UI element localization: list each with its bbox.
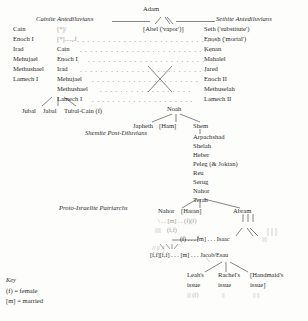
- node-seth: Seth ('substitute'): [204, 26, 249, 33]
- lamech-child-0: Jubal: [22, 108, 36, 115]
- cainite-item-4: Methushael: [13, 66, 44, 73]
- leader-dots-6: . . . . . . . . . . . . . . . . . .: [100, 87, 191, 93]
- leader-dots-4: . . . . . . . . . . . . . . . . . . . . …: [80, 67, 207, 73]
- leader-dots-5: . . . . . . . . . . . . . . . . . . . . …: [92, 77, 199, 83]
- key-item-female: (f) = female: [6, 288, 38, 295]
- cainite-item-0: Cain: [13, 26, 25, 33]
- cainite-item-1: Enoch I: [13, 36, 34, 43]
- cainite-item-5: Lamech I: [13, 76, 38, 83]
- issue-group-1-line2: issue: [218, 282, 231, 289]
- shemite-item-6: Serug: [193, 179, 208, 186]
- cainite-mirror-4: Irad: [57, 66, 68, 73]
- cainite-item-2: Irad: [13, 46, 24, 53]
- lamech-child-2: Tubal-Cain (f): [64, 108, 102, 115]
- shemite-item-2: Shelah: [193, 143, 211, 150]
- sethite-item-5: Methuselah: [204, 86, 235, 93]
- leader-dots-3: . . . . . . . . . . . . . . . . . . . . …: [88, 57, 205, 63]
- heading-sethite: Sethite Antediluvians: [216, 16, 272, 23]
- heading-patriarchs: Proto-Israelite Patriarchs: [59, 205, 128, 212]
- genealogy-diagram: Adam Cainite Antediluvians Sethite Anted…: [0, 0, 308, 321]
- patriarch-row-3: (f) . . . [m] . . . Isaac: [180, 236, 229, 242]
- cainite-mirror-2: Cain: [57, 46, 69, 53]
- cainite-item-3: Mehujael: [13, 56, 38, 63]
- noah-son-1: [Ham]: [159, 123, 176, 130]
- sethite-item-7: Noah: [167, 106, 181, 113]
- tally-marks-1: |||||: [155, 227, 161, 233]
- issue-group-1-line1: Rachel's: [218, 272, 240, 279]
- issue-group-2-line2: issue]: [250, 282, 265, 289]
- heading-shemite: Shemite Post-Diluvians: [85, 130, 147, 137]
- heading-cainite: Cainite Antediluvians: [36, 16, 93, 23]
- issue-marks-0: ||| (f): [187, 292, 198, 298]
- issue-marks-1: ||: [222, 292, 224, 298]
- sethite-item-4: Enoch II: [204, 76, 227, 83]
- issue-group-0-line1: Leah's: [187, 272, 204, 279]
- sethite-item-0: Enosh ('mortal'): [204, 36, 246, 43]
- cainite-mirror-5: Mehujael: [57, 76, 82, 83]
- cainite-mirror-7: Lamech I: [57, 96, 82, 103]
- noah-son-2: Shem: [193, 123, 208, 130]
- shemite-item-3: Heber: [193, 152, 209, 159]
- tally-marks-2: ||||: [262, 236, 267, 242]
- key-title: Key: [6, 277, 16, 283]
- patriarch-row-2: (f,f): [167, 227, 177, 233]
- node-haran: [Haran]: [181, 208, 202, 215]
- patriarch-row-1: \ . . [m] . . (f)(f): [158, 218, 197, 224]
- cainite-mirror-3: Enoch I: [57, 56, 78, 63]
- issue-group-2-line1: [Handmaid's: [250, 272, 283, 279]
- node-nahor: Nahor: [158, 208, 174, 215]
- sethite-item-1: Kenan: [204, 46, 221, 53]
- patriarch-row-4: [f,f][f,f] . . . [m] . . . Jacob/Esau: [150, 252, 228, 258]
- shemite-item-1: Arpachshad: [193, 134, 225, 141]
- node-abel: [Abel ('vapor')]: [143, 26, 184, 33]
- leader-dots-7: . . . . . . . . . . . . . . . . . . . .: [92, 97, 193, 103]
- noah-son-0: Japheth: [133, 123, 153, 130]
- cainite-mirror-6: Methushael: [57, 86, 88, 93]
- leader-dots-1: . . . . . . . . . . . . . . . . . . . . …: [72, 37, 225, 43]
- sethite-item-2: Mahalel: [204, 56, 226, 63]
- sethite-item-6: Lamech II: [204, 96, 231, 103]
- key-item-married: [m] = married: [6, 298, 43, 305]
- lamech-child-1: Jabal: [43, 108, 57, 115]
- leader-dots-2: . . . . . . . . . . . . . . . . . . . . …: [80, 47, 213, 53]
- shemite-item-5: Reu: [193, 170, 204, 177]
- shemite-item-8: Terah: [193, 197, 208, 204]
- cainite-mirror-0: [*]/: [57, 26, 67, 33]
- issue-group-0-line2: issue: [187, 282, 200, 289]
- shemite-item-7: Nahor: [193, 188, 209, 195]
- node-abram: Abram: [233, 208, 251, 215]
- shemite-item-4: Peleg (& Joktan): [193, 161, 238, 168]
- sethite-item-3: Jared: [204, 66, 218, 73]
- node-adam: Adam: [143, 6, 159, 13]
- issue-marks-2: || ||: [253, 292, 260, 298]
